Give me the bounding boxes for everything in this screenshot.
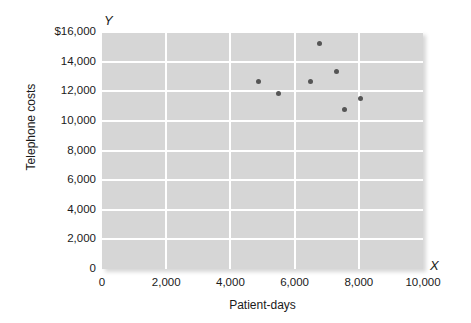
data-point: [317, 41, 322, 46]
gridline-horizontal: [102, 90, 423, 92]
gridline-horizontal: [102, 61, 423, 63]
gridline-horizontal: [102, 209, 423, 211]
gridline-horizontal: [102, 150, 423, 152]
gridline-horizontal: [102, 31, 423, 33]
gridline-horizontal: [102, 179, 423, 181]
x-axis-letter: X: [430, 258, 439, 273]
data-point: [256, 79, 261, 84]
y-axis-tick-label: 2,000: [26, 233, 96, 245]
y-axis-tick-label: 4,000: [26, 204, 96, 216]
data-point: [342, 107, 347, 112]
gridline-horizontal: [102, 120, 423, 122]
y-axis-title: Telephone costs: [24, 52, 38, 202]
gridline-vertical: [165, 32, 167, 269]
plot-area: [102, 32, 423, 269]
gridline-horizontal: [102, 238, 423, 240]
y-axis-tick-label: $16,000: [26, 26, 96, 38]
x-axis-tick-label: 10,000: [383, 277, 463, 289]
gridline-vertical: [294, 32, 296, 269]
gridline-vertical: [229, 32, 231, 269]
x-axis-tick-labels: 02,0004,0006,0008,00010,000: [102, 277, 423, 293]
y-axis-letter: Y: [104, 13, 113, 28]
data-point: [276, 91, 281, 96]
x-axis-title: Patient-days: [102, 298, 423, 312]
y-axis-tick-label: 0: [26, 263, 96, 275]
data-point: [334, 69, 339, 74]
gridline-vertical: [358, 32, 360, 269]
data-point: [358, 96, 363, 101]
scatter-chart-figure: 02,0004,0006,0008,00010,00012,00014,000$…: [0, 0, 471, 323]
data-point: [308, 79, 313, 84]
